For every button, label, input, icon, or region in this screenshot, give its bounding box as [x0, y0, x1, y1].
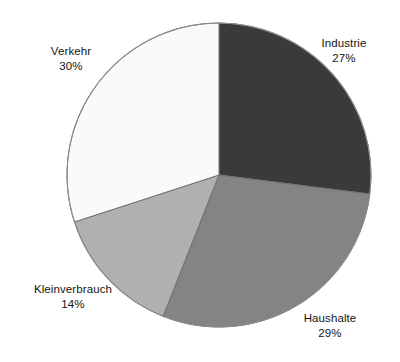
slice-label-kleinverbrauch-value: 14% — [8, 297, 138, 312]
slice-label-kleinverbrauch: Kleinverbrauch 14% — [8, 282, 138, 312]
pie-chart: Industrie 27% Haushalte 29% Kleinverbrau… — [0, 0, 400, 362]
slice-label-kleinverbrauch-name: Kleinverbrauch — [8, 282, 138, 297]
slice-label-industrie-value: 27% — [296, 51, 392, 66]
slice-label-industrie: Industrie 27% — [296, 36, 392, 66]
slice-label-haushalte-value: 29% — [278, 326, 382, 341]
slice-label-verkehr-name: Verkehr — [18, 44, 124, 59]
slice-label-haushalte: Haushalte 29% — [278, 311, 382, 341]
slice-label-haushalte-name: Haushalte — [278, 311, 382, 326]
slice-label-industrie-name: Industrie — [296, 36, 392, 51]
slice-label-verkehr: Verkehr 30% — [18, 44, 124, 74]
slice-label-verkehr-value: 30% — [18, 59, 124, 74]
